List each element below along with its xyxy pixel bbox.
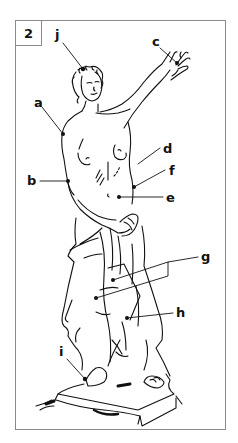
leader-d — [138, 148, 160, 164]
label-b: b — [27, 174, 36, 187]
label-h: h — [176, 306, 185, 319]
label-i: i — [59, 345, 63, 358]
leader-f — [134, 170, 165, 187]
leader-c — [160, 48, 177, 63]
drapery — [62, 218, 170, 376]
leader-j — [63, 43, 83, 69]
leader-a — [42, 107, 63, 134]
leader-h — [127, 313, 173, 318]
label-c: c — [152, 35, 160, 48]
label-d: d — [163, 142, 172, 155]
head — [72, 66, 103, 112]
leader-g-lower — [96, 257, 198, 298]
base — [36, 368, 182, 427]
label-a: a — [34, 96, 43, 109]
label-f: f — [169, 164, 175, 177]
torso — [62, 109, 133, 204]
label-points — [61, 61, 179, 381]
label-g: g — [201, 250, 210, 263]
lower-arm — [68, 183, 138, 236]
label-j: j — [55, 28, 59, 41]
leader-lines — [40, 43, 198, 379]
statue-drawing — [0, 0, 238, 443]
label-e: e — [166, 191, 175, 204]
